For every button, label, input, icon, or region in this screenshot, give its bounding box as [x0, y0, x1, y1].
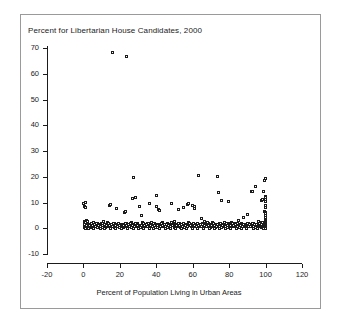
scatter-point — [99, 227, 102, 230]
scatter-point — [177, 208, 180, 211]
scatter-point — [152, 227, 155, 230]
scatter-point — [193, 207, 196, 210]
scatter-point — [216, 175, 219, 178]
scatter-point — [251, 190, 254, 193]
x-tick-label: 120 — [289, 270, 315, 279]
scatter-point — [109, 227, 112, 230]
scatter-point — [124, 210, 127, 213]
scatter-point — [256, 227, 259, 230]
scatter-point — [213, 227, 216, 230]
plot-area — [47, 44, 300, 263]
scatter-point — [196, 227, 199, 230]
x-tick-label: -20 — [34, 270, 60, 279]
scatter-point — [188, 222, 191, 225]
scatter-point — [202, 227, 205, 230]
x-tick-label: 100 — [253, 270, 279, 279]
x-tick-label: 80 — [216, 270, 242, 279]
y-tick-label: 50 — [19, 95, 39, 104]
y-tick-label: 10 — [19, 198, 39, 207]
scatter-point — [132, 227, 135, 230]
scatter-point — [142, 227, 145, 230]
y-tick-label: 20 — [19, 172, 39, 181]
x-axis-line — [47, 263, 302, 264]
x-tick-label: 20 — [107, 270, 133, 279]
y-tick-label: 30 — [19, 146, 39, 155]
scatter-point — [84, 201, 87, 204]
x-tick-label: 60 — [180, 270, 206, 279]
y-tick-label: -10 — [19, 249, 39, 258]
scatter-point — [125, 55, 128, 58]
scatter-point — [262, 190, 265, 193]
scatter-point — [191, 227, 194, 230]
scatter-point — [87, 227, 90, 230]
scatter-point — [169, 227, 172, 230]
scatter-point — [187, 202, 190, 205]
scatter-point — [134, 196, 137, 199]
x-tick-mark — [156, 264, 157, 268]
scatter-point — [197, 174, 200, 177]
scatter-point — [224, 227, 227, 230]
y-tick-label: 70 — [19, 43, 39, 52]
scatter-point — [114, 227, 117, 230]
scatter-point — [262, 227, 265, 230]
x-axis-title: Percent of Population Living in Urban Ar… — [0, 288, 338, 297]
scatter-point — [218, 227, 221, 230]
scatter-point — [111, 51, 114, 54]
scatter-point — [180, 227, 183, 230]
scatter-point — [158, 209, 161, 212]
scatter-point — [182, 206, 185, 209]
scatter-point — [242, 216, 245, 219]
x-tick-label: 0 — [70, 270, 96, 279]
scatter-point — [208, 227, 211, 230]
scatter-point — [217, 191, 220, 194]
y-tick-label: 60 — [19, 69, 39, 78]
scatter-point — [103, 227, 106, 230]
scatter-point — [115, 207, 118, 210]
scatter-point — [148, 227, 151, 230]
scatter-point — [240, 227, 243, 230]
scatter-point — [252, 227, 255, 230]
chart-title: Percent for Libertarian House Candidates… — [28, 26, 202, 35]
scatter-point — [185, 227, 188, 230]
scatter-plot-figure: Percent for Libertarian House Candidates… — [0, 0, 338, 329]
y-tick-label: 40 — [19, 120, 39, 129]
scatter-point — [246, 213, 249, 216]
scatter-point — [86, 220, 89, 223]
scatter-point — [229, 227, 232, 230]
x-tick-mark — [83, 264, 84, 268]
scatter-point — [158, 227, 161, 230]
scatter-point — [227, 200, 230, 203]
x-tick-mark — [302, 264, 303, 268]
x-tick-mark — [229, 264, 230, 268]
scatter-point — [132, 176, 135, 179]
x-tick-mark — [120, 264, 121, 268]
scatter-point — [174, 227, 177, 230]
scatter-point — [264, 206, 267, 209]
x-tick-mark — [193, 264, 194, 268]
scatter-point — [245, 227, 248, 230]
scatter-point — [264, 200, 267, 203]
scatter-point — [254, 185, 257, 188]
y-tick-label: 0 — [19, 223, 39, 232]
scatter-point — [92, 227, 95, 230]
scatter-point — [126, 227, 129, 230]
scatter-point — [109, 203, 112, 206]
scatter-point — [148, 202, 151, 205]
scatter-point — [138, 205, 141, 208]
scatter-point — [164, 227, 167, 230]
x-tick-label: 40 — [143, 270, 169, 279]
x-tick-mark — [266, 264, 267, 268]
scatter-point — [264, 177, 267, 180]
scatter-point — [137, 227, 140, 230]
scatter-point — [170, 202, 173, 205]
scatter-point — [220, 199, 223, 202]
scatter-point — [140, 214, 143, 217]
x-tick-mark — [47, 264, 48, 268]
scatter-point — [84, 206, 87, 209]
scatter-point — [120, 227, 123, 230]
scatter-point — [235, 227, 238, 230]
scatter-point — [155, 194, 158, 197]
